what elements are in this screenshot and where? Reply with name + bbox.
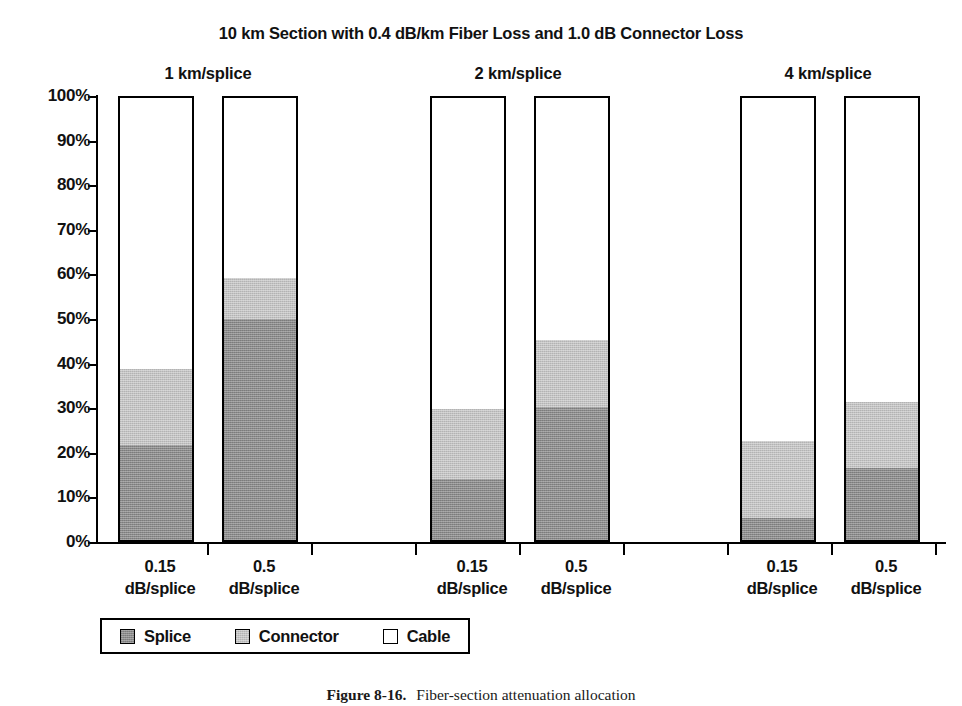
- x-tick: [831, 544, 833, 555]
- x-axis-baseline: [96, 542, 946, 544]
- bar-segment-connector: [120, 369, 192, 444]
- bar-segment-cable: [846, 98, 918, 402]
- bar-group2-0.5[interactable]: [534, 96, 610, 542]
- x-label-line1: 0.5: [796, 556, 962, 578]
- bar-group1-0.15[interactable]: [118, 96, 194, 542]
- plot-area: 100% 90% 80% 70% 60% 50% 40% 30% 20% 10%…: [97, 96, 945, 542]
- x-tick: [311, 544, 313, 555]
- y-tick-label: 60%: [57, 264, 90, 284]
- legend-item-cable[interactable]: Cable: [383, 627, 450, 646]
- bar-segment-splice: [120, 445, 192, 540]
- chart-title: 10 km Section with 0.4 dB/km Fiber Loss …: [0, 24, 962, 43]
- bar-group3-0.15[interactable]: [740, 96, 816, 542]
- bar-segment-connector: [742, 441, 814, 517]
- bar-segment-splice: [432, 479, 504, 540]
- y-tick-label: 70%: [57, 220, 90, 240]
- y-tick-label: 100%: [48, 86, 90, 106]
- bar-segment-cable: [120, 98, 192, 369]
- y-tick-label: 20%: [57, 443, 90, 463]
- bar-segment-splice: [224, 319, 296, 540]
- figure-caption-text: Fiber-section attenuation allocation: [416, 686, 635, 703]
- x-tick: [415, 544, 417, 555]
- x-axis-label-group2-0.5: 0.5 dB/splice: [486, 556, 666, 600]
- x-label-line2: dB/splice: [486, 578, 666, 600]
- bar-segment-connector: [432, 409, 504, 480]
- y-tick-label: 0%: [66, 532, 90, 552]
- bar-group1-0.5[interactable]: [222, 96, 298, 542]
- bar-segment-splice: [536, 407, 608, 540]
- legend-swatch-connector-icon: [235, 629, 250, 644]
- group-header-3: 4 km/splice: [738, 64, 918, 83]
- y-tick-label: 90%: [57, 131, 90, 151]
- y-tick-label: 30%: [57, 398, 90, 418]
- bar-segment-connector: [224, 278, 296, 319]
- figure-caption-label: Figure 8-16.: [327, 686, 407, 703]
- legend-swatch-splice-icon: [120, 629, 135, 644]
- group-header-1: 1 km/splice: [118, 64, 298, 83]
- bar-segment-cable: [224, 98, 296, 278]
- x-tick: [623, 544, 625, 555]
- bar-segment-connector: [846, 402, 918, 469]
- chart-legend: Splice Connector Cable: [100, 618, 470, 654]
- x-label-line2: dB/splice: [174, 578, 354, 600]
- group-header-2: 2 km/splice: [428, 64, 608, 83]
- bar-group3-0.5[interactable]: [844, 96, 920, 542]
- x-axis-label-group1-0.5: 0.5 dB/splice: [174, 556, 354, 600]
- x-tick: [727, 544, 729, 555]
- x-tick: [519, 544, 521, 555]
- y-tick-label: 40%: [57, 354, 90, 374]
- y-tick-label: 10%: [57, 487, 90, 507]
- bar-segment-splice: [846, 468, 918, 540]
- bar-group2-0.15[interactable]: [430, 96, 506, 542]
- legend-swatch-cable-icon: [383, 629, 398, 644]
- legend-item-splice[interactable]: Splice: [120, 627, 191, 646]
- bar-segment-cable: [742, 98, 814, 441]
- bar-segment-cable: [432, 98, 504, 409]
- figure-caption: Figure 8-16.Fiber-section attenuation al…: [0, 686, 962, 704]
- bar-segment-splice: [742, 518, 814, 540]
- x-tick: [207, 544, 209, 555]
- legend-label: Splice: [144, 627, 191, 646]
- y-tick-label: 80%: [57, 175, 90, 195]
- bar-segment-connector: [536, 340, 608, 407]
- x-tick: [935, 544, 937, 555]
- legend-label: Connector: [259, 627, 339, 646]
- x-axis-label-group3-0.5: 0.5 dB/splice: [796, 556, 962, 600]
- legend-item-connector[interactable]: Connector: [235, 627, 339, 646]
- x-label-line2: dB/splice: [796, 578, 962, 600]
- y-tick-label: 50%: [57, 309, 90, 329]
- legend-label: Cable: [407, 627, 450, 646]
- x-label-line1: 0.5: [486, 556, 666, 578]
- bar-segment-cable: [536, 98, 608, 340]
- x-label-line1: 0.5: [174, 556, 354, 578]
